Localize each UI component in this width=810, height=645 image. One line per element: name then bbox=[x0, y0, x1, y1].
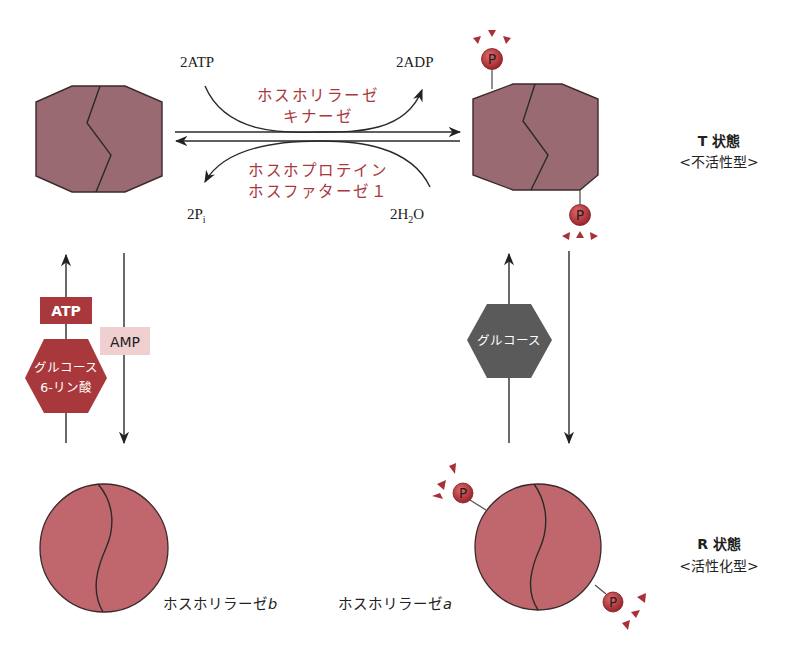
svg-text:P: P bbox=[576, 207, 584, 223]
r-state-phosphorylase-a: P P bbox=[432, 463, 646, 630]
svg-text:P: P bbox=[459, 485, 467, 501]
glycogen-phosphorylase-regulation-diagram: P P 2ATP 2ADP ホスホリラーゼ キナーゼ ホスホプロテ bbox=[0, 0, 810, 645]
spark-icon bbox=[562, 231, 598, 240]
svg-text:AMP: AMP bbox=[110, 334, 140, 350]
phosphorylase-b-label: ホスホリラーゼb bbox=[163, 596, 278, 612]
svg-text:6-リン酸: 6-リン酸 bbox=[40, 380, 91, 395]
phosphate-icon: P bbox=[453, 483, 473, 503]
svg-text:<活性化型>: <活性化型> bbox=[679, 558, 758, 574]
t-state-phosphorylase-a: P P bbox=[473, 30, 598, 240]
phosphate-icon: P bbox=[482, 49, 503, 70]
svg-text:P: P bbox=[609, 594, 617, 610]
svg-text:ATP: ATP bbox=[51, 303, 81, 319]
phosphate-icon: P bbox=[570, 205, 591, 226]
reverse-input-label: 2H2O bbox=[390, 206, 424, 225]
forward-output-label: 2ADP bbox=[396, 54, 434, 70]
phosphorylase-a-label: ホスホリラーゼa bbox=[338, 596, 453, 612]
r-state-phosphorylase-b bbox=[40, 484, 168, 612]
kinase-label-line1: ホスホリラーゼ bbox=[257, 87, 380, 105]
svg-text:<不活性型>: <不活性型> bbox=[679, 154, 758, 170]
t-state-phosphorylase-b bbox=[36, 86, 162, 192]
phosphatase-label-line2: ホスファターゼ１ bbox=[248, 183, 388, 201]
spark-icon bbox=[622, 593, 646, 630]
svg-text:R 状態: R 状態 bbox=[697, 536, 741, 552]
r-state-label: R 状態 <活性化型> bbox=[679, 536, 758, 574]
phosphatase-label-line1: ホスホプロテイン bbox=[248, 162, 388, 180]
svg-text:グルコース: グルコース bbox=[477, 333, 541, 348]
glucose-6-phosphate-hexagon: グルコース 6-リン酸 bbox=[25, 339, 107, 413]
reaction-labels: 2ATP 2ADP ホスホリラーゼ キナーゼ ホスホプロテイン ホスファターゼ１… bbox=[180, 54, 434, 225]
svg-text:T 状態: T 状態 bbox=[698, 133, 740, 149]
svg-text:グルコース: グルコース bbox=[34, 360, 98, 375]
atp-inhibitor-box: ATP bbox=[40, 297, 92, 324]
spark-icon bbox=[473, 30, 511, 44]
glucose-hexagon: グルコース bbox=[467, 304, 552, 378]
reverse-output-label: 2Pi bbox=[187, 206, 206, 225]
kinase-label-line2: キナーゼ bbox=[283, 108, 353, 126]
amp-activator-box: AMP bbox=[100, 327, 150, 355]
svg-text:P: P bbox=[488, 51, 496, 67]
phosphate-icon: P bbox=[603, 592, 623, 612]
t-state-label: T 状態 <不活性型> bbox=[679, 133, 758, 170]
forward-input-label: 2ATP bbox=[180, 54, 214, 70]
spark-icon bbox=[432, 463, 456, 499]
